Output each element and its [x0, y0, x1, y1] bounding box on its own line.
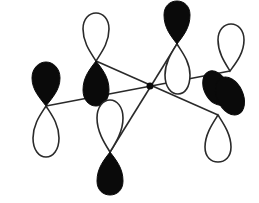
filled-lobe-icon	[97, 152, 123, 195]
bond-left-right	[46, 71, 230, 106]
hollow-lobe-icon	[218, 24, 244, 71]
filled-lobe-icon	[164, 1, 190, 44]
center-atom	[147, 83, 154, 90]
orbital-diagram	[0, 0, 259, 203]
filled-lobe-icon	[83, 61, 109, 106]
filled-lobe-icon	[32, 62, 60, 106]
orbital-top	[164, 1, 190, 94]
hollow-lobe-icon	[33, 106, 59, 157]
bond-lines	[46, 44, 230, 152]
orbital-upper-left	[83, 13, 109, 106]
bond-top-bottom	[110, 44, 177, 152]
hollow-lobe-icon	[205, 115, 231, 162]
orbital-right	[198, 24, 251, 162]
orbital-diagram-canvas	[0, 0, 259, 203]
orbital-bottom	[97, 100, 123, 195]
hollow-lobe-icon	[97, 100, 123, 152]
hollow-lobe-icon	[83, 13, 109, 61]
hollow-lobe-icon	[165, 44, 190, 94]
orbital-left	[32, 62, 60, 157]
